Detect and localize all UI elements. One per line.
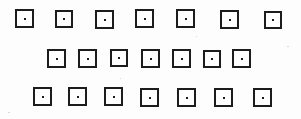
square-glyph [68,87,87,106]
center-dot-icon [262,97,264,99]
square-glyph [33,87,52,106]
figure-canvas [0,0,301,119]
square-glyph [140,88,159,107]
center-dot-icon [42,96,44,98]
scan-speck [287,46,289,47]
scan-speck [8,112,10,113]
square-glyph [214,88,233,107]
center-dot-icon [77,96,79,98]
center-dot-icon [223,97,225,99]
square-glyph [177,88,196,107]
center-dot-icon [113,96,115,98]
row-3 [0,0,301,119]
scan-speck [120,78,121,79]
center-dot-icon [186,97,188,99]
scan-speck [196,36,197,37]
center-dot-icon [149,97,151,99]
square-glyph [253,88,272,107]
square-glyph [104,87,123,106]
